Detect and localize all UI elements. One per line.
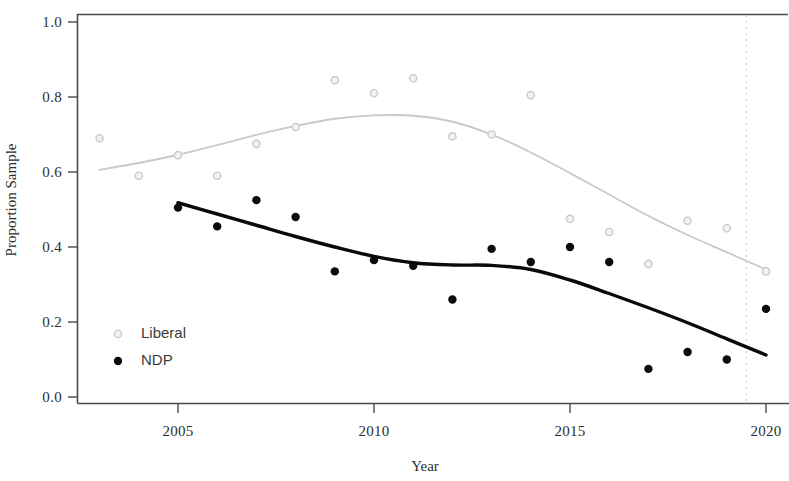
data-point-liberal bbox=[370, 90, 377, 97]
data-series-layer bbox=[96, 75, 770, 373]
x-tick-label: 2010 bbox=[358, 423, 389, 439]
data-point-ndp bbox=[605, 258, 613, 266]
series-liberal bbox=[96, 75, 770, 275]
data-point-ndp bbox=[762, 305, 770, 313]
data-point-ndp bbox=[487, 245, 495, 253]
y-tick-label: 0.6 bbox=[42, 164, 62, 180]
data-point-ndp bbox=[331, 267, 339, 275]
proportion-sample-by-year-chart: 0.00.20.40.60.81.0 2005201020152020 Prop… bbox=[0, 0, 789, 481]
y-tick-label: 1.0 bbox=[42, 14, 62, 30]
data-point-liberal bbox=[566, 215, 573, 222]
data-point-ndp bbox=[566, 243, 574, 251]
data-point-ndp bbox=[448, 295, 456, 303]
y-axis: 0.00.20.40.60.81.0 bbox=[42, 14, 77, 405]
legend: LiberalNDP bbox=[114, 324, 186, 368]
data-point-liberal bbox=[606, 228, 613, 235]
y-tick-label: 0.4 bbox=[42, 239, 62, 255]
data-point-ndp bbox=[370, 256, 378, 264]
x-axis: 2005201020152020 bbox=[162, 404, 781, 440]
data-point-liberal bbox=[253, 140, 260, 147]
data-point-ndp bbox=[252, 196, 260, 204]
data-point-liberal bbox=[488, 131, 495, 138]
data-point-liberal bbox=[331, 77, 338, 84]
legend-label-liberal: Liberal bbox=[141, 324, 186, 341]
data-point-liberal bbox=[645, 260, 652, 267]
x-axis-title: Year bbox=[411, 458, 439, 474]
legend-label-ndp: NDP bbox=[141, 351, 173, 368]
data-point-ndp bbox=[723, 355, 731, 363]
y-axis-title: Proportion Sample bbox=[3, 143, 19, 256]
data-point-liberal bbox=[135, 172, 142, 179]
x-tick-label: 2005 bbox=[162, 423, 193, 439]
data-point-ndp bbox=[409, 262, 417, 270]
x-tick-label: 2015 bbox=[554, 423, 585, 439]
data-point-liberal bbox=[410, 75, 417, 82]
data-point-ndp bbox=[683, 348, 691, 356]
chart-figure: 0.00.20.40.60.81.0 2005201020152020 Prop… bbox=[0, 0, 789, 481]
data-point-liberal bbox=[684, 217, 691, 224]
plot-frame bbox=[78, 15, 789, 404]
trend-line-liberal bbox=[100, 115, 766, 270]
data-point-ndp bbox=[291, 213, 299, 221]
y-tick-label: 0.8 bbox=[42, 89, 62, 105]
data-point-ndp bbox=[527, 258, 535, 266]
data-point-liberal bbox=[723, 225, 730, 232]
data-point-liberal bbox=[449, 133, 456, 140]
legend-marker-ndp bbox=[114, 357, 122, 365]
y-tick-label: 0.2 bbox=[42, 314, 62, 330]
series-ndp bbox=[174, 196, 770, 373]
data-point-liberal bbox=[527, 92, 534, 99]
data-point-liberal bbox=[292, 123, 299, 130]
data-point-liberal bbox=[214, 172, 221, 179]
data-point-ndp bbox=[213, 222, 221, 230]
data-point-ndp bbox=[174, 203, 182, 211]
y-tick-label: 0.0 bbox=[42, 389, 62, 405]
trend-line-ndp bbox=[178, 203, 766, 355]
legend-marker-liberal bbox=[114, 330, 121, 337]
data-point-liberal bbox=[96, 135, 103, 142]
x-tick-label: 2020 bbox=[750, 423, 781, 439]
data-point-liberal bbox=[174, 152, 181, 159]
data-point-ndp bbox=[644, 365, 652, 373]
data-point-liberal bbox=[762, 268, 769, 275]
axis-frame-line bbox=[78, 15, 789, 404]
